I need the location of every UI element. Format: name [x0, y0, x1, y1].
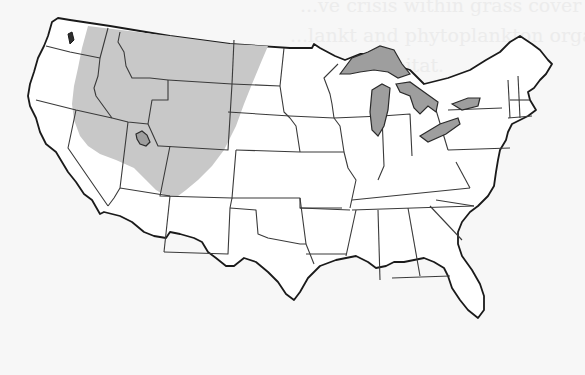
- us-range-map: [0, 0, 585, 375]
